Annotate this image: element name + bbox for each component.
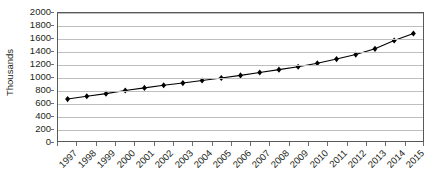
- y-axis-tick-mark: [51, 77, 54, 78]
- y-axis-tick-mark: [51, 25, 54, 26]
- x-axis-tick-mark: [327, 142, 328, 146]
- gridline: [58, 13, 423, 14]
- gridline: [58, 130, 423, 131]
- x-axis-tick-mark: [366, 142, 367, 146]
- x-axis-tick-label: 2011: [328, 148, 349, 169]
- data-point-marker: [180, 80, 185, 86]
- x-axis: 1997199819992000200120022003200420052006…: [57, 142, 424, 183]
- x-axis-tick-mark: [231, 142, 232, 146]
- x-axis-tick-mark: [173, 142, 174, 146]
- gridline: [58, 26, 423, 27]
- gridline: [58, 104, 423, 105]
- x-axis-tick-mark: [57, 142, 58, 146]
- data-point-marker: [257, 69, 262, 75]
- data-point-marker: [334, 56, 339, 62]
- gridline: [58, 78, 423, 79]
- data-point-marker: [65, 96, 70, 102]
- y-axis-tick-label: 800: [35, 85, 51, 95]
- x-axis-tick-label: 2001: [134, 148, 156, 170]
- y-axis-tick-label: 1000: [30, 72, 51, 82]
- x-axis-tick-label: 2004: [192, 148, 214, 170]
- y-axis-tick-mark: [51, 64, 54, 65]
- gridline: [58, 117, 423, 118]
- gridline: [58, 91, 423, 92]
- chart-container: Thousands 020040060080010001200140016001…: [0, 0, 440, 183]
- x-axis-tick-mark: [250, 142, 251, 146]
- y-axis-tick-mark: [51, 38, 54, 39]
- data-point-marker: [373, 46, 378, 52]
- y-axis-tick-mark: [51, 51, 54, 52]
- y-axis-tick-mark: [51, 116, 54, 117]
- plot-area: [57, 12, 424, 142]
- x-axis-tick-mark: [347, 142, 348, 146]
- x-axis-tick-label: 2008: [269, 148, 291, 170]
- x-axis-tick-mark: [96, 142, 97, 146]
- data-series-line: [58, 13, 423, 141]
- gridline: [58, 52, 423, 53]
- x-axis-tick-label: 2010: [308, 148, 330, 170]
- y-axis-tick-mark: [51, 129, 54, 130]
- y-axis-tick-label: 1200: [30, 59, 51, 69]
- y-axis-tick-label: 1800: [30, 20, 51, 30]
- y-axis-tick-mark: [51, 142, 54, 143]
- data-point-marker: [276, 67, 281, 73]
- data-point-marker: [411, 30, 416, 36]
- x-axis-tick-mark: [405, 142, 406, 146]
- y-axis-tick-mark: [51, 103, 54, 104]
- x-axis-tick-label: 1999: [95, 148, 117, 170]
- y-axis-tick-label: 2000: [30, 7, 51, 17]
- x-axis-tick-mark: [289, 142, 290, 146]
- x-axis-tick-label: 2007: [250, 148, 272, 170]
- x-axis-tick-label: 2012: [346, 148, 368, 170]
- x-axis-tick-mark: [308, 142, 309, 146]
- x-axis-tick-mark: [423, 142, 424, 146]
- x-axis-tick-mark: [385, 142, 386, 146]
- y-axis-tick-mark: [51, 12, 54, 13]
- series-line: [68, 33, 414, 99]
- x-axis-tick-mark: [134, 142, 135, 146]
- gridline: [58, 39, 423, 40]
- y-axis-tick-label: 1400: [30, 46, 51, 56]
- x-axis-tick-label: 2015: [404, 148, 426, 170]
- data-point-marker: [161, 82, 166, 88]
- gridline: [58, 65, 423, 66]
- x-axis-tick-mark: [154, 142, 155, 146]
- x-axis-tick-label: 2013: [366, 148, 388, 170]
- x-axis-tick-label: 2000: [115, 148, 137, 170]
- x-axis-tick-label: 2002: [153, 148, 175, 170]
- y-axis-title-text: Thousands: [4, 49, 15, 96]
- x-axis-tick-label: 1998: [76, 148, 98, 170]
- y-axis-tick-label: 400: [35, 111, 51, 121]
- y-axis-tick-label: 1600: [30, 33, 51, 43]
- x-axis-tick-label: 2006: [231, 148, 253, 170]
- y-axis-tick-labels: 0200400600800100012001400160018002000: [18, 12, 54, 142]
- y-axis-tick-label: 600: [35, 98, 51, 108]
- y-axis-title: Thousands: [0, 0, 18, 145]
- x-axis-tick-mark: [115, 142, 116, 146]
- x-axis-tick-label: 2014: [385, 148, 407, 170]
- y-axis-tick-label: 200: [35, 124, 51, 134]
- x-axis-tick-label: 2003: [173, 148, 195, 170]
- x-axis-tick-label: 1997: [57, 148, 79, 170]
- x-axis-tick-label: 2005: [211, 148, 233, 170]
- x-axis-tick-label: 2009: [288, 148, 310, 170]
- x-axis-tick-mark: [212, 142, 213, 146]
- x-axis-tick-mark: [76, 142, 77, 146]
- x-axis-tick-mark: [269, 142, 270, 146]
- data-point-marker: [84, 93, 89, 99]
- y-axis-tick-mark: [51, 90, 54, 91]
- x-axis-tick-mark: [192, 142, 193, 146]
